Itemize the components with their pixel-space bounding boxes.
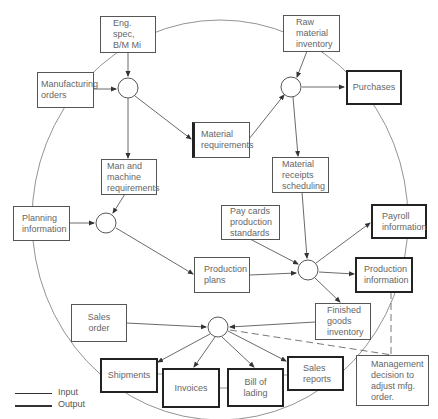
node-purchases: Purchases — [346, 70, 402, 105]
node-material-requirements: Material requirements — [192, 122, 250, 158]
node-eng-spec: Eng. spec, B/M Mi — [100, 16, 156, 53]
node-finished-goods-label: Finished goods inventory — [327, 305, 364, 338]
node-production-plans-label: Production plans — [204, 264, 247, 286]
node-invoices-label: Invoices — [174, 383, 207, 394]
node-material-receipts-label: Material receipts scheduling — [282, 159, 325, 192]
node-man-machine-requirements: Man and machine requirements — [101, 159, 157, 195]
node-management-decision-label: Management decision to adjust mfg. order… — [371, 359, 424, 403]
node-management-decision: Management decision to adjust mfg. order… — [356, 355, 429, 406]
node-purchases-label: Purchases — [353, 82, 396, 93]
legend: Input Output — [0, 0, 100, 419]
legend-output-label: Output — [58, 399, 85, 409]
node-invoices: Invoices — [162, 368, 220, 408]
node-material-requirements-label: Material requirements — [201, 129, 254, 151]
node-bill-of-lading: Bill of lading — [227, 368, 284, 407]
node-finished-goods-inventory: Finished goods inventory — [315, 303, 371, 340]
node-man-machine-label: Man and machine requirements — [107, 161, 160, 194]
node-pay-cards: Pay cards production standards — [221, 205, 280, 240]
process-node-4 — [298, 260, 318, 280]
node-production-information: Production information — [355, 257, 413, 293]
process-node-2 — [281, 77, 301, 97]
node-material-receipts-scheduling: Material receipts scheduling — [272, 157, 329, 193]
node-production-plans: Production plans — [194, 257, 250, 293]
node-raw-material-inventory: Raw material inventory — [283, 15, 340, 52]
legend-input-label: Input — [58, 387, 78, 397]
node-production-information-label: Production information — [364, 264, 409, 286]
node-bill-of-lading-label: Bill of lading — [243, 377, 267, 399]
legend-input-line — [15, 393, 52, 394]
node-shipments-label: Shipments — [108, 370, 151, 381]
node-pay-cards-label: Pay cards production standards — [230, 206, 272, 239]
node-raw-material-label: Raw material inventory — [296, 17, 333, 50]
process-node-5 — [208, 317, 228, 337]
node-sales-reports-label: Sales reports — [303, 363, 331, 385]
node-payroll-information: Payroll information — [371, 204, 427, 239]
node-shipments: Shipments — [100, 358, 158, 393]
legend-output-line — [15, 405, 52, 407]
node-payroll-information-label: Payroll information — [382, 211, 427, 233]
node-sales-reports: Sales reports — [287, 356, 344, 391]
node-eng-spec-label: Eng. spec, B/M Mi — [113, 18, 149, 51]
process-node-1 — [118, 78, 138, 98]
